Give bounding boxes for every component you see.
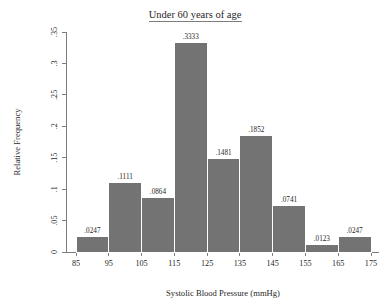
histogram-bar (109, 182, 142, 252)
y-tick-label: .3 (50, 60, 59, 66)
x-axis-title: Systolic Blood Pressure (mmHg) (166, 288, 280, 298)
x-tick-label: 85 (72, 259, 80, 268)
x-tick-label: 115 (168, 259, 180, 268)
bar-value-label: .0247 (84, 227, 101, 235)
x-tick-label: 95 (105, 259, 113, 268)
bar-value-label: .0741 (281, 196, 298, 204)
bar-value-label: .0247 (347, 227, 364, 235)
histogram-bar (338, 236, 371, 252)
y-tick-label: .35 (50, 27, 59, 37)
x-tick-label: 105 (135, 259, 147, 268)
bar-value-label: .0123 (314, 235, 331, 243)
histogram-bar (305, 244, 338, 252)
bar-value-label: .1852 (248, 126, 265, 134)
y-axis-title: Relative Frequency (12, 108, 22, 176)
histogram-bar (207, 159, 240, 252)
x-tick-label: 155 (299, 259, 311, 268)
histogram-bar (76, 236, 109, 252)
x-tick-label: 165 (332, 259, 344, 268)
histogram-bar (240, 136, 273, 252)
histogram-chart: Under 60 years of age 0.05.1.15.2.25.3.3… (0, 0, 390, 304)
y-tick-label: .2 (50, 123, 59, 129)
y-tick-label: .25 (50, 90, 59, 100)
bar-value-label: .1111 (117, 173, 133, 181)
y-tick-label: 0 (50, 250, 59, 254)
chart-title: Under 60 years of age (149, 9, 242, 20)
chart-canvas: Under 60 years of age 0.05.1.15.2.25.3.3… (0, 0, 390, 304)
y-tick-label: .05 (50, 215, 59, 225)
y-tick-label: .1 (50, 186, 59, 192)
bar-value-label: .1481 (215, 149, 232, 157)
x-tick-label: 135 (234, 259, 246, 268)
x-tick-label: 175 (365, 259, 377, 268)
histogram-bar (273, 205, 306, 252)
y-tick-label: .15 (50, 153, 59, 163)
histogram-bar (142, 198, 175, 252)
x-tick-label: 145 (267, 259, 279, 268)
bar-value-label: .3333 (183, 33, 200, 41)
x-tick-label: 125 (201, 259, 213, 268)
histogram-bar (174, 42, 207, 252)
bar-value-label: .0864 (150, 188, 167, 196)
